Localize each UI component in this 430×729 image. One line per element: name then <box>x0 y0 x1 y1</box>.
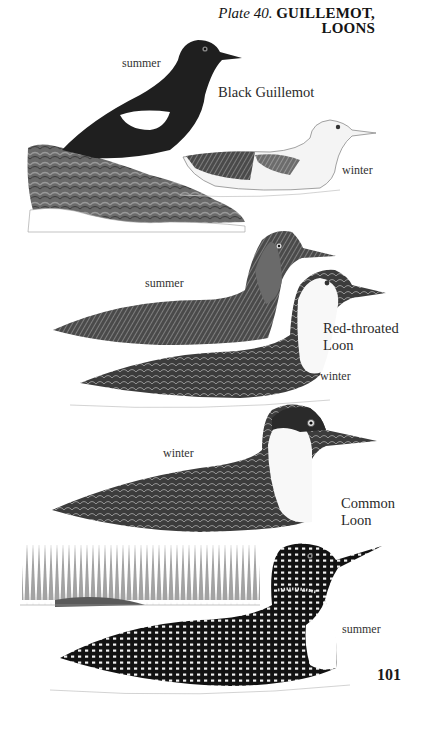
plumage-label-guillemot-winter: winter <box>342 163 373 178</box>
field-guide-page: Plate 40. GUILLEMOT, LOONS summer Black … <box>0 0 430 729</box>
plumage-label-red-throated-summer: summer <box>145 276 184 291</box>
plumage-label-common-loon-winter: winter <box>163 446 194 461</box>
species-name-common-loon: Common Loon <box>341 495 395 529</box>
bird-illustrations <box>0 0 430 729</box>
page-number: 101 <box>377 666 401 684</box>
species-name-red-throated-loon: Red-throated Loon <box>323 320 399 354</box>
lake-tree-line-illustration <box>20 545 260 607</box>
plumage-label-common-loon-summer: summer <box>342 622 381 637</box>
species-name-black-guillemot: Black Guillemot <box>218 84 314 101</box>
plate-title-line2: LOONS <box>218 21 375 36</box>
black-guillemot-winter-illustration <box>180 120 376 197</box>
plumage-label-guillemot-summer: summer <box>122 56 161 71</box>
plate-title-line1: GUILLEMOT, <box>276 5 375 21</box>
plate-number: Plate 40. <box>218 5 272 21</box>
plumage-label-red-throated-winter: winter <box>320 369 351 384</box>
plate-title: Plate 40. GUILLEMOT, LOONS <box>218 6 375 36</box>
common-loon-winter-illustration <box>52 404 377 532</box>
